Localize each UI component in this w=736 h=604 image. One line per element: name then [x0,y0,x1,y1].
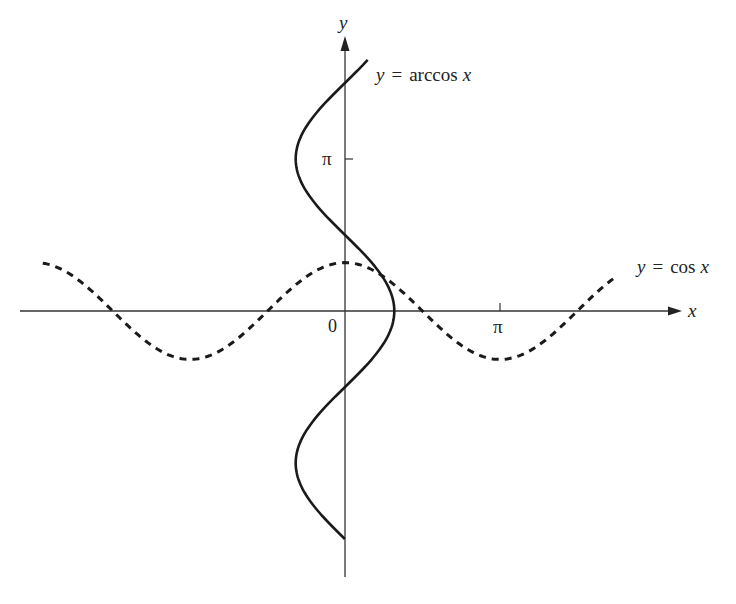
y-axis-label: y [337,12,348,33]
chart-canvas: x y 0 π π y=arccosx y=cosx [0,0,736,604]
y-axis-arrow-icon [341,36,350,51]
arccos-curve-label: y=arccosx [374,64,472,85]
y-tick-label-pi: π [322,148,332,169]
x-axis-arrow-icon [668,307,682,316]
function-graph: x y 0 π π y=arccosx y=cosx [0,0,736,604]
x-axis-label: x [687,300,697,321]
origin-label: 0 [328,316,337,336]
cos-curve-label: y=cosx [635,256,709,277]
x-tick-label-pi: π [493,316,503,337]
